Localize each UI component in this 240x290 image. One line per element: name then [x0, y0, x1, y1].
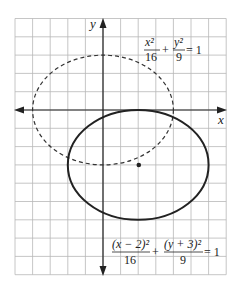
eq2-term2-numerator: (y + 3)²	[164, 237, 201, 251]
x-axis-label: x	[217, 112, 224, 127]
x-axis-left-arrow-icon	[14, 107, 24, 114]
eq2-term2-denominator: 9	[180, 253, 186, 267]
equation-translated: (x − 2)² 16 + (y + 3)² 9 = 1	[112, 237, 220, 267]
coordinate-plane: x y x² 16 + y² 9 = 1 (x − 2)² 16 + (y + …	[0, 0, 240, 290]
eq1-term1-numerator: x²	[144, 35, 154, 49]
eq2-term1-numerator: (x − 2)²	[112, 237, 149, 251]
center-point	[137, 163, 142, 168]
eq1-plus: +	[162, 43, 169, 57]
eq1-rhs: = 1	[186, 43, 202, 57]
equation-original: x² 16 + y² 9 = 1	[144, 35, 202, 64]
eq1-term1-denominator: 16	[145, 50, 157, 64]
eq2-rhs: = 1	[204, 245, 220, 259]
y-axis-top-arrow-icon	[100, 18, 107, 28]
eq2-plus: +	[152, 245, 159, 259]
y-axis-label: y	[88, 16, 96, 31]
eq1-term2-denominator: 9	[176, 50, 182, 64]
eq2-term1-denominator: 16	[124, 253, 136, 267]
eq1-term2-numerator: y²	[173, 35, 183, 49]
